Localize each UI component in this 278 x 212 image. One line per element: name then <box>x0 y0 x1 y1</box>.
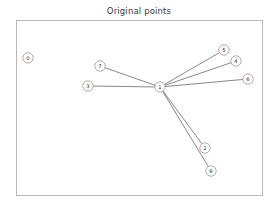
node-circle[interactable] <box>206 166 216 176</box>
graph-node[interactable]: 1 <box>155 82 165 92</box>
graph-edge <box>93 86 155 87</box>
node-circle[interactable] <box>219 45 229 55</box>
graph-node[interactable]: 7 <box>95 61 105 71</box>
graph-node[interactable]: 4 <box>231 56 241 66</box>
graph-node[interactable]: 5 <box>219 45 229 55</box>
graph-node[interactable]: 0 <box>23 53 33 63</box>
graph-node[interactable]: 6 <box>243 74 253 84</box>
node-circle[interactable] <box>155 82 165 92</box>
nodes-layer: 012345678 <box>23 45 253 176</box>
graph-node[interactable]: 3 <box>83 81 93 91</box>
graph-edge <box>105 68 155 86</box>
graph-edge <box>163 91 202 144</box>
graph-edge <box>165 53 220 85</box>
node-circle[interactable] <box>83 81 93 91</box>
graph-edge <box>165 79 243 86</box>
node-circle[interactable] <box>200 143 210 153</box>
graph-edge <box>163 91 209 166</box>
graph-node[interactable]: 2 <box>200 143 210 153</box>
node-circle[interactable] <box>243 74 253 84</box>
node-circle[interactable] <box>95 61 105 71</box>
node-circle[interactable] <box>23 53 33 63</box>
graph-plot: 012345678 <box>0 0 278 212</box>
graph-node[interactable]: 8 <box>206 166 216 176</box>
figure-canvas: Original points 012345678 <box>0 0 278 212</box>
node-circle[interactable] <box>231 56 241 66</box>
graph-edge <box>165 63 231 86</box>
edges-layer <box>93 53 243 167</box>
